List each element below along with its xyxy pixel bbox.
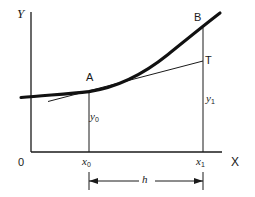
origin-label: 0 xyxy=(18,157,24,168)
ordinate-label-y1: y1 xyxy=(206,93,215,104)
point-label-t: T xyxy=(205,55,212,66)
abscissa-label-x0: x0 xyxy=(82,156,91,167)
dimension-arrow-left xyxy=(89,178,98,184)
ordinate-label-y0: y0 xyxy=(90,111,99,122)
ordinate-label-y1-subscript: 1 xyxy=(211,98,215,105)
abscissa-label-x0-subscript: 0 xyxy=(87,161,91,168)
abscissa-label-x1-subscript: 1 xyxy=(201,161,205,168)
point-label-a: A xyxy=(86,72,93,83)
y-axis-label: Y xyxy=(17,7,24,20)
dimension-label-h: h xyxy=(142,174,148,185)
figure-canvas xyxy=(0,0,255,197)
ordinate-label-y0-subscript: 0 xyxy=(95,116,99,123)
point-label-b: B xyxy=(194,12,201,23)
abscissa-label-x1: x1 xyxy=(196,156,205,167)
figure-tangent-approximation: Y X 0 A B T y0 y1 x0 x1 h xyxy=(0,0,255,197)
x-axis-label: X xyxy=(231,156,239,168)
function-curve xyxy=(21,13,220,98)
dimension-arrow-right xyxy=(194,178,203,184)
